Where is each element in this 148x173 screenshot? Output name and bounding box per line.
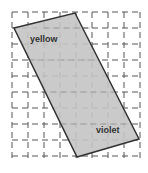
diagram-canvas: yellow violet (0, 0, 148, 173)
label-violet: violet (96, 125, 120, 135)
label-yellow: yellow (30, 34, 59, 44)
